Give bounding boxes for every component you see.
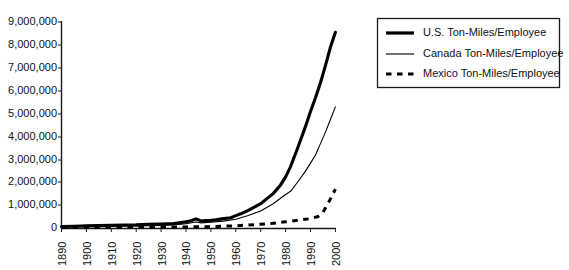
y-axis-labels: 9,000,000 8,000,000 7,000,000 6,000,000 …	[8, 15, 57, 233]
x-axis-label: 1910	[106, 242, 118, 266]
legend-label-mexico: Mexico Ton-Miles/Employee	[423, 67, 560, 79]
legend-label-canada: Canada Ton-Miles/Employee	[423, 47, 563, 59]
y-axis-label: 4,000,000	[8, 130, 57, 142]
legend-label-us: U.S. Ton-Miles/Employee	[423, 26, 546, 38]
x-axis-label: 1900	[81, 242, 93, 266]
y-axis-label: 3,000,000	[8, 153, 57, 165]
chart-container: 9,000,000 8,000,000 7,000,000 6,000,000 …	[0, 0, 569, 270]
y-axis-label: 6,000,000	[8, 84, 57, 96]
x-axis-label: 1980	[280, 242, 292, 266]
x-axis-label: 1960	[230, 242, 242, 266]
y-axis-label: 7,000,000	[8, 61, 57, 73]
y-axis-label: 8,000,000	[8, 38, 57, 50]
x-axis-label: 1950	[205, 242, 217, 266]
y-axis-label: 9,000,000	[8, 15, 57, 27]
legend: U.S. Ton-Miles/Employee Canada Ton-Miles…	[378, 19, 564, 88]
y-axis-label: 5,000,000	[8, 107, 57, 119]
line-chart: 9,000,000 8,000,000 7,000,000 6,000,000 …	[0, 0, 569, 270]
series-line-us	[62, 32, 336, 226]
y-axis-label: 2,000,000	[8, 175, 57, 187]
x-axis	[61, 229, 336, 233]
series-line-mexico	[62, 189, 336, 228]
y-axis-label: 0	[51, 221, 57, 233]
x-axis-label: 1970	[255, 242, 267, 266]
x-axis-labels: 1890 1900 1910 1920 1930 1940 1950 1960 …	[56, 242, 342, 266]
x-axis-label: 1920	[131, 242, 143, 266]
y-axis-label: 1,000,000	[8, 198, 57, 210]
x-axis-label: 2000	[330, 242, 342, 266]
x-axis-label: 1990	[305, 242, 317, 266]
series-group	[62, 32, 336, 227]
y-axis	[58, 21, 62, 229]
x-axis-label: 1890	[56, 242, 68, 266]
x-axis-label: 1930	[156, 242, 168, 266]
x-axis-label: 1940	[180, 242, 192, 266]
series-line-canada	[62, 107, 336, 227]
